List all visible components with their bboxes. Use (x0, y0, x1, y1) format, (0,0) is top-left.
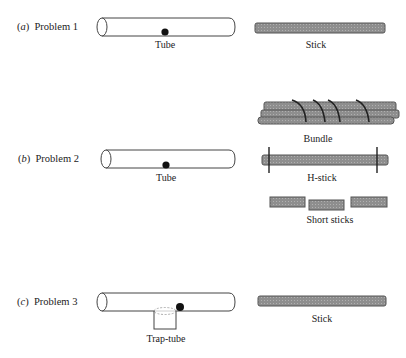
reward-icon (161, 28, 168, 35)
reward-icon (176, 303, 184, 311)
problem-a-label: (a) Problem 1 (17, 21, 78, 32)
tube-b (101, 150, 235, 169)
h-stick (262, 147, 388, 173)
short-sticks (270, 197, 387, 210)
stick-a-caption: Stick (306, 39, 327, 50)
tube-a (97, 18, 235, 36)
problem-letter: b (22, 153, 27, 164)
stick-a (255, 23, 385, 33)
problem-title: Problem 1 (35, 21, 78, 32)
problem-c-label: (c) Problem 3 (17, 296, 77, 307)
stick-c (258, 296, 386, 306)
tube-a-caption: Tube (155, 39, 175, 50)
short-sticks-caption: Short sticks (307, 214, 354, 225)
reward-icon (162, 161, 169, 168)
problem-letter: a (21, 21, 26, 32)
trap-tube (97, 293, 235, 329)
trap-tube-caption: Trap-tube (146, 333, 185, 344)
problem-title: Problem 3 (34, 296, 77, 307)
bundle (258, 100, 399, 124)
problem-b-label: (b) Problem 2 (18, 153, 79, 164)
stick-c-caption: Stick (312, 313, 333, 324)
h-stick-caption: H-stick (307, 172, 336, 183)
problem-title: Problem 2 (36, 153, 79, 164)
bundle-caption: Bundle (304, 133, 333, 144)
tube-b-caption: Tube (156, 172, 176, 183)
problem-letter: c (21, 296, 26, 307)
